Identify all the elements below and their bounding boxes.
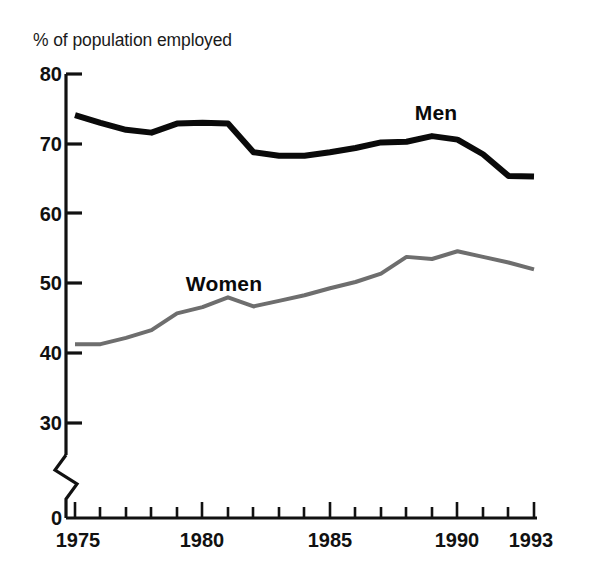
x-tick-label-1993: 1993 <box>509 530 554 550</box>
plot-area <box>0 0 590 581</box>
series-line-men <box>75 115 534 176</box>
x-tick-label-1985: 1985 <box>308 530 353 550</box>
x-tick-label-1975: 1975 <box>56 530 101 550</box>
x-tick-label-1990: 1990 <box>435 530 480 550</box>
employment-line-chart: % of population employed 80 70 60 50 40 … <box>0 0 590 581</box>
series-label-men: Men <box>415 101 458 125</box>
series-line-women <box>75 251 534 344</box>
series-label-women: Women <box>186 272 262 296</box>
x-tick-label-1980: 1980 <box>180 530 225 550</box>
x-axis <box>66 502 537 518</box>
y-axis <box>55 74 82 518</box>
